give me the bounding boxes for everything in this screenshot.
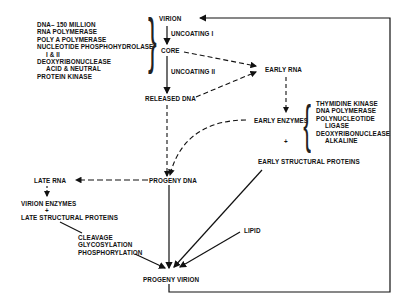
early-structural-proteins-label: EARLY STRUCTURAL PROTEINS	[258, 158, 360, 165]
virion-components-brace: }	[148, 10, 157, 71]
component-item: I & II	[37, 51, 153, 58]
uncoating-2-label: UNCOATING II	[171, 68, 215, 75]
released-dna-to-early-rna-arrow	[196, 72, 256, 97]
early-enzyme-list: THYMIDINE KINASE DNA POLYMERASE POLYNUCL…	[316, 100, 390, 144]
progeny-virion-label: PROGENY VIRION	[143, 276, 199, 283]
component-item: PROTEIN KINASE	[37, 73, 153, 80]
core-to-early-rna-arrow	[184, 52, 256, 66]
enzyme-item: THYMIDINE KINASE	[316, 100, 390, 107]
component-item: DEOXYRIBONUCLEASE	[37, 58, 153, 65]
processing-step: PHOSPHORYLATION	[78, 249, 142, 256]
uncoating-1-label: UNCOATING I	[171, 30, 213, 37]
plus-sign-1: +	[284, 138, 288, 145]
late-structural-proteins-label: LATE STRUCTURAL PROTEINS	[21, 214, 118, 221]
progeny-dna-label: PROGENY DNA	[149, 177, 197, 184]
processing-steps-list: CLEAVAGE GLYCOSYLATION PHOSPHORYLATION	[78, 234, 142, 256]
component-item: POLY A POLYMERASE	[37, 36, 153, 43]
lipid-to-progeny-virion-arrow	[180, 232, 240, 267]
late-rna-label: LATE RNA	[34, 177, 66, 184]
component-item: NUCLEOTIDE PHOSPHOHYDROLASE	[37, 43, 153, 50]
processing-step: CLEAVAGE	[78, 234, 142, 241]
enzyme-item: ALKALINE	[316, 137, 390, 144]
core-label: CORE	[161, 47, 180, 54]
early-rna-label: EARLY RNA	[265, 66, 302, 73]
virion-label: VIRION	[159, 15, 181, 22]
released-dna-label: RELEASED DNA	[145, 95, 196, 102]
component-item: DNA– 150 MILLION	[37, 21, 153, 28]
lipid-label: LIPID	[244, 227, 261, 234]
processing-step: GLYCOSYLATION	[78, 241, 142, 248]
virion-component-list: DNA– 150 MILLION RNA POLYMERASE POLY A P…	[37, 21, 153, 80]
early-enzymes-label: EARLY ENZYMES	[254, 117, 308, 124]
component-item: ACID & NEUTRAL	[37, 65, 153, 72]
early-enzymes-brace: }	[303, 98, 311, 150]
early-structural-to-progeny-virion-arrow	[174, 170, 262, 267]
enzyme-item: LIGASE	[316, 122, 390, 129]
return-loop-arrow	[169, 18, 390, 292]
enzyme-item: DNA POLYMERASE	[316, 107, 390, 114]
component-item: RNA POLYMERASE	[37, 28, 153, 35]
enzyme-item: POLYNUCLEOTIDE	[316, 115, 390, 122]
early-enzymes-to-progeny-dna-arrow	[170, 120, 246, 175]
late-proteins-to-processing-line	[60, 222, 82, 233]
enzyme-item: DEOXYRIBONUCLEASE	[316, 130, 390, 137]
